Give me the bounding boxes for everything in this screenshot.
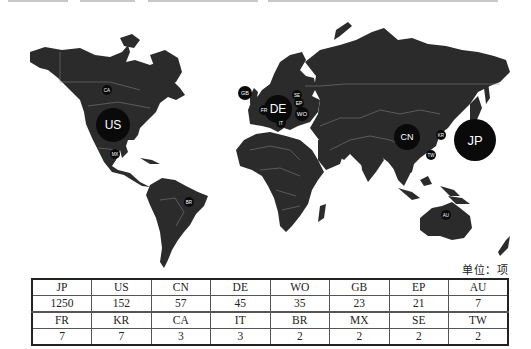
- bubble-ca: CA: [102, 85, 112, 95]
- table-row: 7 7 3 3 2 2 2 2: [32, 329, 508, 346]
- bubble-se: SE: [292, 90, 302, 100]
- table-cell: WO: [270, 279, 330, 296]
- svg-text:CN: CN: [401, 132, 414, 142]
- table-row: FR KR CA IT BR MX SE TW: [32, 312, 508, 329]
- svg-text:TW: TW: [428, 153, 436, 158]
- table-cell: 2: [270, 329, 330, 346]
- svg-text:MX: MX: [112, 152, 119, 157]
- table-cell: 3: [211, 329, 271, 346]
- svg-text:CA: CA: [104, 88, 110, 93]
- south-america: [146, 178, 208, 268]
- landmasses: [30, 22, 510, 268]
- table-cell: 2: [330, 329, 390, 346]
- svg-text:US: US: [105, 118, 122, 132]
- table-cell: 23: [330, 296, 390, 313]
- table-cell: 45: [211, 296, 271, 313]
- table-cell: 57: [151, 296, 211, 313]
- bubble-kr: KR: [436, 130, 446, 140]
- svg-text:FR: FR: [261, 107, 268, 113]
- table-cell: 152: [92, 296, 152, 313]
- table-cell: US: [92, 279, 152, 296]
- unit-label: 单位：项: [462, 261, 508, 277]
- bubble-tw: TW: [426, 150, 436, 160]
- table-cell: JP: [32, 279, 92, 296]
- svg-text:JP: JP: [467, 133, 482, 148]
- table-cell: 1250: [32, 296, 92, 313]
- bubble-br: BR: [184, 197, 194, 207]
- novaya-zemlya: [334, 22, 352, 40]
- new-zealand: [498, 236, 510, 256]
- bubble-au: AU: [441, 210, 451, 220]
- table-cell: SE: [389, 312, 449, 329]
- svg-text:SE: SE: [294, 93, 300, 98]
- table-cell: IT: [211, 312, 271, 329]
- bubble-wo: WO: [295, 107, 309, 121]
- svg-text:AU: AU: [443, 213, 449, 218]
- africa: [236, 132, 324, 232]
- svg-text:WO: WO: [297, 111, 308, 117]
- table-cell: 3: [151, 329, 211, 346]
- patent-count-table: JP US CN DE WO GB EP AU 1250 152 57 45 3…: [31, 278, 509, 346]
- table-cell: DE: [211, 279, 271, 296]
- table-cell: 35: [270, 296, 330, 313]
- table-cell: GB: [330, 279, 390, 296]
- table-cell: KR: [92, 312, 152, 329]
- svg-text:KR: KR: [438, 133, 445, 138]
- india: [360, 150, 384, 182]
- bubble-jp: JP: [454, 119, 496, 161]
- svg-text:BR: BR: [186, 200, 193, 205]
- bubble-us: US: [96, 108, 130, 142]
- svg-text:DE: DE: [270, 102, 287, 116]
- madagascar: [318, 204, 326, 222]
- table-cell: AU: [449, 279, 509, 296]
- bubble-gb: GB: [238, 86, 252, 100]
- table-row: JP US CN DE WO GB EP AU: [32, 279, 508, 296]
- bubble-it: IT: [276, 118, 286, 128]
- cuba: [140, 158, 160, 164]
- table-cell: BR: [270, 312, 330, 329]
- world-map: JPUSCNDEWOGBEPAUFRKRCAITBRMXSETW: [0, 0, 531, 270]
- table-cell: TW: [449, 312, 509, 329]
- svg-text:IT: IT: [279, 121, 283, 126]
- table-cell: 2: [389, 329, 449, 346]
- table-cell: FR: [32, 312, 92, 329]
- svg-text:GB: GB: [241, 90, 249, 96]
- table-row: 1250 152 57 45 35 23 21 7: [32, 296, 508, 313]
- table-cell: 7: [449, 296, 509, 313]
- table-cell: CA: [151, 312, 211, 329]
- bubble-fr: FR: [259, 105, 269, 115]
- table-cell: EP: [389, 279, 449, 296]
- bubble-mx: MX: [110, 149, 120, 159]
- arctic-islands: [120, 34, 140, 48]
- bubble-cn: CN: [394, 124, 420, 150]
- table-cell: MX: [330, 312, 390, 329]
- table-cell: 2: [449, 329, 509, 346]
- table-cell: 7: [92, 329, 152, 346]
- table-cell: 7: [32, 329, 92, 346]
- table-cell: 21: [389, 296, 449, 313]
- table-cell: CN: [151, 279, 211, 296]
- australia: [420, 202, 472, 240]
- svg-text:EP: EP: [296, 100, 303, 106]
